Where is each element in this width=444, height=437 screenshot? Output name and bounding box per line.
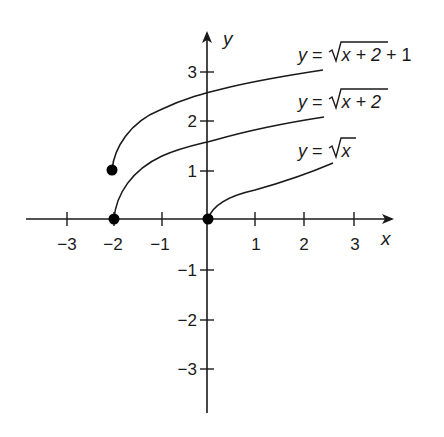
label-sqrt-x-plus-2-plus-1: y = x + 2 + 1 — [296, 42, 412, 65]
x-tick-label: −3 — [57, 235, 76, 254]
x-tick-label: 1 — [251, 235, 260, 254]
endpoint-dot-neg2-0 — [109, 214, 120, 225]
x-axis-label: x — [380, 228, 392, 249]
svg-text:y = x + 2: y = x + 2 — [296, 92, 381, 112]
y-tick-label: 2 — [188, 112, 197, 131]
x-tick-label: 2 — [299, 235, 308, 254]
svg-text:y = x: y = x — [296, 141, 352, 161]
curve-sqrt-x-plus-2-plus-1 — [112, 70, 323, 170]
svg-text:y = x + 2 + 1: y = x + 2 + 1 — [296, 45, 412, 65]
y-axis-label: y — [221, 28, 234, 49]
y-tick-label: −3 — [178, 360, 197, 379]
y-tick-label: 3 — [188, 63, 197, 82]
y-tick-label: −2 — [178, 311, 197, 330]
y-tick-label: −1 — [178, 261, 197, 280]
y-tick-label: 1 — [188, 162, 197, 181]
label-sqrt-x-plus-2: y = x + 2 — [296, 89, 388, 112]
endpoint-dot-origin — [203, 214, 214, 225]
curve-sqrt-x — [208, 163, 333, 219]
x-tick-label: −2 — [103, 235, 122, 254]
x-tick-label: 3 — [350, 235, 359, 254]
label-sqrt-x: y = x — [296, 138, 356, 161]
function-graph: −3 −2 −1 1 2 3 3 2 1 −1 −2 −3 y x y = x … — [0, 0, 444, 437]
x-tick-labels: −3 −2 −1 1 2 3 — [57, 235, 359, 254]
endpoint-dot-neg2-1 — [107, 165, 118, 176]
y-tick-labels: 3 2 1 −1 −2 −3 — [178, 63, 197, 379]
x-tick-label: −1 — [150, 235, 169, 254]
